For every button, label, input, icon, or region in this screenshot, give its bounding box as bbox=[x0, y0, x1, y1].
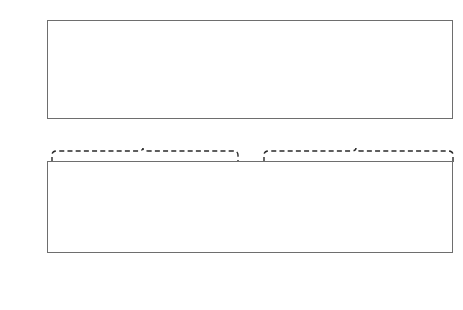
y-axis-label bbox=[2, 0, 18, 278]
bottom-chart-y-axis bbox=[47, 161, 453, 253]
top-chart-panel bbox=[47, 20, 453, 119]
bottom-chart-panel bbox=[47, 161, 453, 253]
top-chart-y-axis bbox=[47, 20, 453, 119]
legend bbox=[26, 286, 458, 302]
